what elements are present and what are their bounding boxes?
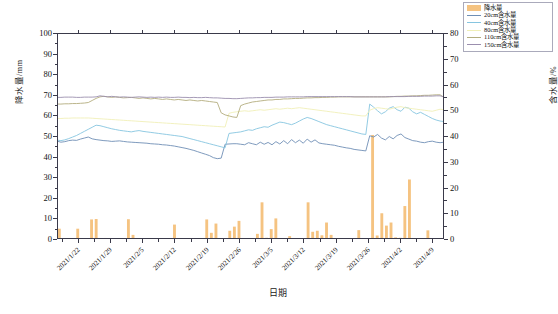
x-axis-tick-mark <box>78 239 79 243</box>
x-axis-tick-mark <box>142 239 143 243</box>
plot-frame-top <box>57 33 444 34</box>
x-axis-minor-tick <box>223 239 224 242</box>
y-axis-left-tick-label: 20 <box>22 193 52 203</box>
y-axis-left-tick-label: 90 <box>22 49 52 59</box>
y-axis-right-tick-label: 10 <box>450 208 480 218</box>
x-axis-minor-tick <box>352 239 353 242</box>
x-axis-tick-label: 2021/4/9 <box>412 246 436 270</box>
x-axis-minor-tick <box>126 239 127 242</box>
y-axis-left-tick-label: 0 <box>22 234 52 244</box>
y-axis-left-tick-label: 100 <box>22 28 52 38</box>
x-axis-tick-mark <box>303 239 304 243</box>
y-axis-right-minor-tick <box>444 72 447 73</box>
y-axis-right-tick-mark <box>444 162 448 163</box>
y-axis-right-tick-label: 30 <box>450 157 480 167</box>
y-axis-left-tick-label: 70 <box>22 90 52 100</box>
x-axis-tick-label: 2021/4/2 <box>380 246 404 270</box>
y-axis-left-tick-label: 10 <box>22 213 52 223</box>
y-axis-right-tick-mark <box>444 188 448 189</box>
x-axis-minor-tick <box>255 239 256 242</box>
x-axis-tick-mark <box>271 239 272 243</box>
legend-item[interactable]: 20cm含水量 <box>467 12 549 18</box>
precipitation-bar <box>385 226 388 239</box>
chart-canvas <box>57 33 444 239</box>
moisture-line-80cm含水量 <box>57 107 444 127</box>
plot-frame-left <box>57 33 58 239</box>
y-axis-right-minor-tick <box>444 149 447 150</box>
y-axis-left-tick-label: 30 <box>22 172 52 182</box>
precipitation-bar <box>380 213 383 239</box>
legend-line-swatch <box>467 30 481 31</box>
legend-bar-swatch <box>467 5 481 11</box>
y-axis-right-tick-label: 20 <box>450 183 480 193</box>
chart-legend: 降水量20cm含水量40cm含水量80cm含水量110cm含水量150cm含水量 <box>463 2 553 52</box>
y-axis-right-tick-mark <box>444 85 448 86</box>
x-axis-tick-label: 2021/2/19 <box>184 246 210 272</box>
y-axis-right-tick-label: 70 <box>450 54 480 64</box>
y-axis-right-minor-tick <box>444 97 447 98</box>
legend-label: 110cm含水量 <box>484 34 519 40</box>
x-axis-minor-tick <box>320 239 321 242</box>
x-axis-minor-tick <box>94 239 95 242</box>
precipitation-bar <box>95 219 98 239</box>
plot-frame-right <box>443 33 444 239</box>
legend-label: 20cm含水量 <box>484 12 516 18</box>
precipitation-bar <box>205 219 208 239</box>
x-axis-tick-mark <box>400 239 401 243</box>
legend-label: 150cm含水量 <box>484 42 519 48</box>
x-axis-tick-mark <box>110 239 111 243</box>
legend-item[interactable]: 150cm含水量 <box>467 42 549 48</box>
y-axis-right-tick-mark <box>444 59 448 60</box>
x-axis-minor-tick <box>416 239 417 242</box>
y-axis-right-minor-tick <box>444 123 447 124</box>
x-axis-tick-label: 2021/3/12 <box>281 246 307 272</box>
y-axis-right-tick-mark <box>444 213 448 214</box>
y-axis-left-tick-mark <box>53 239 57 240</box>
x-axis-tick-mark <box>239 239 240 243</box>
legend-line-swatch <box>467 44 481 45</box>
precipitation-bar <box>215 224 218 239</box>
x-axis-tick-mark <box>368 239 369 243</box>
y-axis-left-tick-label: 80 <box>22 69 52 79</box>
y-axis-right-tick-mark <box>444 33 448 34</box>
legend-line-swatch <box>467 15 481 16</box>
precipitation-bar <box>307 202 310 239</box>
x-axis-minor-tick <box>158 239 159 242</box>
legend-line-swatch <box>467 37 481 38</box>
legend-item[interactable]: 110cm含水量 <box>467 35 549 41</box>
y-axis-left-tick-label: 50 <box>22 131 52 141</box>
precipitation-bar <box>238 221 241 239</box>
x-axis-title: 日期 <box>0 286 556 299</box>
x-axis-tick-label: 2021/1/22 <box>55 246 81 272</box>
moisture-line-20cm含水量 <box>57 134 444 159</box>
precipitation-bar <box>408 179 411 239</box>
precipitation-bar <box>173 225 176 239</box>
y-axis-right-minor-tick <box>444 200 447 201</box>
legend-line-swatch <box>467 22 481 23</box>
y-axis-right-tick-mark <box>444 136 448 137</box>
y-axis-right-minor-tick <box>444 46 447 47</box>
x-axis-tick-label: 2021/3/19 <box>313 246 339 272</box>
x-axis-tick-mark <box>174 239 175 243</box>
precipitation-bar <box>403 206 406 239</box>
x-axis-minor-tick <box>191 239 192 242</box>
x-axis-tick-label: 2021/3/5 <box>251 246 275 270</box>
x-axis-tick-label: 2021/1/29 <box>87 246 113 272</box>
y-axis-right-tick-label: 60 <box>450 80 480 90</box>
y-axis-left-tick-label: 40 <box>22 152 52 162</box>
x-axis-tick-label: 2021/2/12 <box>152 246 178 272</box>
x-axis-minor-tick <box>287 239 288 242</box>
x-axis-tick-label: 2021/2/5 <box>122 246 146 270</box>
y-axis-right-tick-label: 40 <box>450 131 480 141</box>
x-axis-tick-label: 2021/3/26 <box>345 246 371 272</box>
precipitation-bar <box>371 135 374 239</box>
y-axis-right-minor-tick <box>444 175 447 176</box>
y-axis-right-tick-mark <box>444 239 448 240</box>
precipitation-bar <box>325 223 328 239</box>
precipitation-bar <box>90 219 93 239</box>
precipitation-bar <box>390 223 393 239</box>
x-axis-tick-mark <box>207 239 208 243</box>
x-axis-tick-mark <box>432 239 433 243</box>
legend-item[interactable]: 40cm含水量 <box>467 20 549 26</box>
